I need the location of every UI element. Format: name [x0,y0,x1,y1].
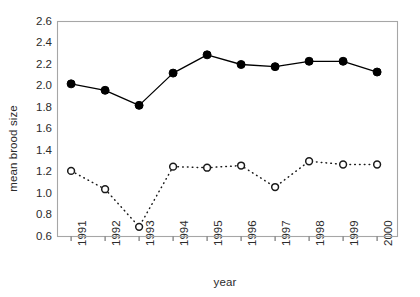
chart-figure: mean brood size 0.60.81.01.21.41.61.82.0… [0,0,420,297]
data-point-open-circle-series [170,163,177,170]
data-point-open-circle-series [68,168,75,175]
data-point-open-circle-series [238,162,245,169]
data-point-filled-circle-series [67,80,75,88]
data-point-open-circle-series [136,223,143,230]
plot-frame [58,22,398,237]
data-point-filled-circle-series [169,69,177,77]
data-point-filled-circle-series [373,68,381,76]
data-point-open-circle-series [306,158,313,165]
data-point-open-circle-series [374,161,381,168]
data-point-filled-circle-series [101,86,109,94]
data-point-open-circle-series [272,184,279,191]
plot-area [0,0,420,297]
data-point-filled-circle-series [203,51,211,59]
data-point-open-circle-series [102,186,109,193]
data-point-open-circle-series [340,161,347,168]
data-point-filled-circle-series [305,57,313,65]
data-point-filled-circle-series [271,63,279,71]
x-axis-title: year [55,276,395,288]
data-point-filled-circle-series [237,61,245,69]
data-point-filled-circle-series [339,57,347,65]
data-point-open-circle-series [204,164,211,171]
series-line-open-circle-series [71,161,377,227]
series-line-filled-circle-series [71,55,377,106]
data-point-filled-circle-series [135,101,143,109]
